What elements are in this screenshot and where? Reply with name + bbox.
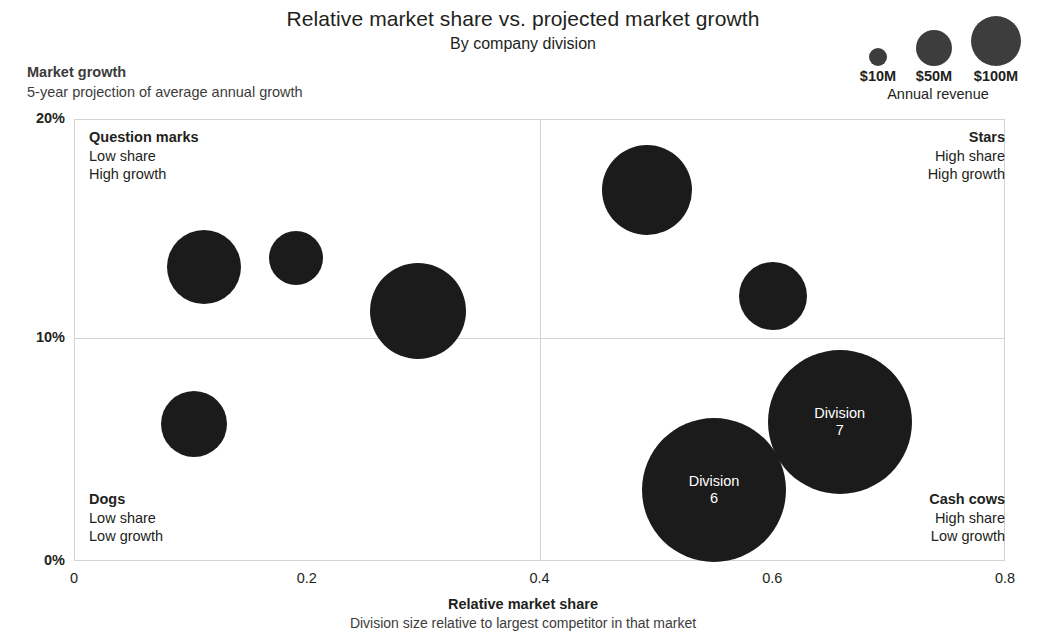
- x-axis-subtitle: Division size relative to largest compet…: [0, 615, 1046, 631]
- y-tick-label-0: 0%: [5, 552, 65, 568]
- bubble-label: Division6: [689, 473, 740, 507]
- quadrant-line-1: High share: [929, 509, 1005, 528]
- quadrant-label-cash-cows: Cash cows High share Low growth: [929, 490, 1005, 546]
- x-tick-label-0.8: 0.8: [975, 570, 1035, 586]
- quadrant-name: Dogs: [89, 490, 163, 509]
- bubble-division-6[interactable]: Division6: [642, 418, 786, 562]
- quadrant-line-1: Low share: [89, 509, 163, 528]
- legend-caption: Annual revenue: [838, 86, 1038, 102]
- quadrant-line-2: Low growth: [929, 527, 1005, 546]
- quadrant-name: Cash cows: [929, 490, 1005, 509]
- legend-bubble-50M: [916, 30, 952, 66]
- y-axis-subtitle: 5-year projection of average annual grow…: [27, 84, 303, 100]
- bubble-label: Division7: [814, 405, 865, 439]
- legend-label-50M: $50M: [899, 68, 969, 84]
- quadrant-line-2: High growth: [89, 165, 199, 184]
- bubble-point-5[interactable]: [602, 145, 692, 235]
- quadrant-line-1: Low share: [89, 147, 199, 166]
- legend-label-100M: $100M: [961, 68, 1031, 84]
- quadrant-name: Question marks: [89, 128, 199, 147]
- quadrant-name: Stars: [928, 128, 1005, 147]
- y-tick-label-10: 10%: [5, 329, 65, 345]
- quadrant-line-2: High growth: [928, 165, 1005, 184]
- x-tick-label-0.2: 0.2: [277, 570, 337, 586]
- x-tick-label-0.4: 0.4: [510, 570, 570, 586]
- y-axis-title: Market growth: [27, 64, 126, 80]
- quadrant-line-1: High share: [928, 147, 1005, 166]
- quadrant-line-2: Low growth: [89, 527, 163, 546]
- bubble-division-7[interactable]: Division7: [768, 350, 912, 494]
- quadrant-divider-vertical: [540, 119, 541, 561]
- size-legend: $10M$50M$100M Annual revenue: [838, 8, 1038, 104]
- quadrant-label-question-marks: Question marks Low share High growth: [89, 128, 199, 184]
- quadrant-label-dogs: Dogs Low share Low growth: [89, 490, 163, 546]
- x-axis-title: Relative market share: [0, 596, 1046, 612]
- legend-bubble-100M: [971, 16, 1021, 66]
- bubble-point-6[interactable]: [739, 262, 807, 330]
- quadrant-label-stars: Stars High share High growth: [928, 128, 1005, 184]
- x-tick-label-0.6: 0.6: [742, 570, 802, 586]
- legend-bubble-10M: [869, 48, 887, 66]
- x-tick-label-0: 0: [44, 570, 104, 586]
- bubble-point-1[interactable]: [167, 230, 241, 304]
- bubble-point-4[interactable]: [161, 391, 227, 457]
- y-tick-label-20: 20%: [5, 110, 65, 126]
